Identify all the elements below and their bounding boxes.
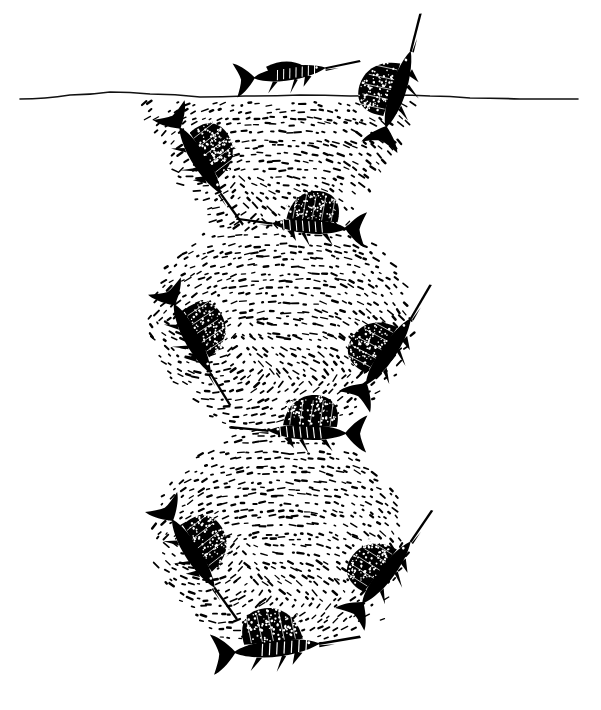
bait-ball-illustration: [0, 0, 601, 710]
illustration-canvas: [0, 0, 601, 710]
background: [0, 0, 601, 710]
